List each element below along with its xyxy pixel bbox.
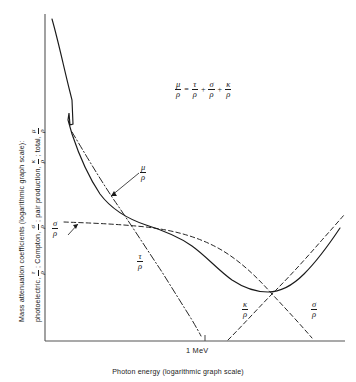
fraction-mu-over-rho: μ ρ (140, 163, 146, 182)
fraction-denominator: ρ (225, 89, 231, 99)
fraction-denominator: ρ (192, 89, 198, 99)
fraction-denominator: ρ (242, 309, 248, 319)
y-axis-label-photoelectric: photoelectric, (34, 278, 42, 322)
fraction-numerator: τ (192, 80, 197, 89)
fraction-numerator: σ (208, 80, 214, 89)
annotation-mu-rho: μ ρ (140, 163, 146, 182)
fraction-numerator: μ (140, 163, 146, 172)
y-axis-label-total: ; total, (34, 136, 42, 157)
fraction-kappa-over-rho: κ ρ (30, 159, 46, 165)
plot-canvas (0, 0, 356, 382)
fraction-numerator: σ (52, 219, 58, 228)
fraction-denominator: ρ (38, 159, 46, 165)
equation-lhs-fraction: μ ρ (175, 80, 181, 99)
equation-plus-sign-1: + (200, 85, 206, 94)
equation-plus-sign-2: + (217, 85, 223, 94)
equation-term-tau-fraction: τ ρ (192, 80, 198, 99)
fraction-denominator: ρ (140, 172, 146, 182)
fraction-numerator: σ (311, 300, 317, 309)
attenuation-coefficient-figure: Mass attenuation coefficients (logarithm… (0, 0, 356, 382)
fraction-sigma-over-rho: σ ρ (311, 300, 317, 319)
y-axis-label-line2: photoelectric, τ ρ ; Compton, σ ρ ; pair… (30, 128, 46, 322)
curve-pair-production-kappa-rho (228, 215, 344, 340)
curve-photoelectric-tau-rho (72, 132, 201, 336)
fraction-numerator: κ (242, 300, 248, 309)
fraction-numerator: μ (30, 128, 37, 134)
fraction-kappa-over-rho: κ ρ (242, 300, 248, 319)
equation-equals-sign: = (184, 85, 190, 94)
fraction-numerator: κ (30, 159, 37, 165)
fraction-mu-over-rho: μ ρ (30, 128, 46, 134)
fraction-denominator: ρ (208, 89, 214, 99)
y-axis-label-group: Mass attenuation coefficients (logarithm… (0, 0, 40, 330)
annotation-sigma-rho-right: σ ρ (311, 300, 317, 319)
fraction-denominator: ρ (175, 89, 181, 99)
y-axis-label-pair-production: ; pair production, (34, 166, 42, 222)
fraction-denominator: ρ (38, 270, 46, 276)
fraction-numerator: τ (30, 271, 37, 276)
fraction-numerator: κ (225, 80, 231, 89)
fraction-numerator: τ (138, 252, 143, 261)
fraction-numerator: σ (30, 224, 37, 230)
annotation-tau-rho: τ ρ (137, 252, 143, 271)
fraction-denominator: ρ (38, 128, 46, 134)
x-axis-tick-label-1mev: 1 MeV (186, 346, 208, 355)
fraction-tau-over-rho: τ ρ (137, 252, 143, 271)
fraction-numerator: μ (175, 80, 181, 89)
fraction-sigma-over-rho: σ ρ (52, 219, 58, 238)
equation-term-sigma-fraction: σ ρ (208, 80, 214, 99)
fraction-denominator: ρ (311, 309, 317, 319)
attenuation-equation: μ ρ = τ ρ + σ ρ + κ ρ (175, 80, 231, 99)
equation-term-kappa-fraction: κ ρ (225, 80, 231, 99)
y-axis-label-compton: ; Compton, (34, 232, 42, 268)
fraction-sigma-over-rho: σ ρ (30, 224, 46, 230)
leader-line-mu-rho (111, 173, 139, 196)
y-axis-label-line1: Mass attenuation coefficients (logarithm… (18, 141, 26, 322)
x-axis-label: Photon energy (logarithmic graph scale) (0, 368, 356, 376)
annotation-kappa-rho: κ ρ (242, 300, 248, 319)
fraction-denominator: ρ (137, 261, 143, 271)
curve-total-mu-rho (52, 19, 340, 292)
curve-compton-sigma-rho (64, 222, 312, 338)
annotation-sigma-rho-left: σ ρ (52, 219, 58, 238)
fraction-tau-over-rho: τ ρ (30, 270, 46, 276)
fraction-denominator: ρ (52, 228, 58, 238)
fraction-denominator: ρ (38, 224, 46, 230)
